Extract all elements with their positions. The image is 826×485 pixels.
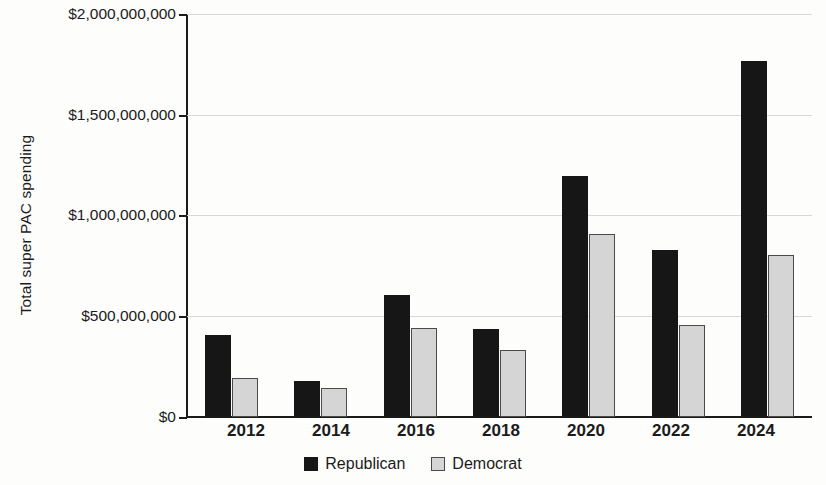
bar-chart: Total super PAC spending $2,000,000,000 … [0,0,826,485]
y-tick-label-2000000000: $2,000,000,000 [0,5,176,23]
legend-label-democrat: Democrat [452,455,521,473]
gridline-2000000000 [187,14,812,15]
plot-area [187,14,812,417]
bar-democrat-2024 [768,255,794,417]
bar-democrat-2012 [232,378,258,417]
x-tick-label-2018: 2018 [461,421,541,441]
legend-item-democrat: Democrat [431,455,521,473]
bar-democrat-2016 [411,328,437,417]
bar-republican-2024 [741,61,767,417]
x-tick-label-2016: 2016 [376,421,456,441]
y-tick-label-1500000000: $1,500,000,000 [0,106,176,124]
bar-republican-2020 [562,176,588,417]
y-tick-label-0: $0 [0,408,176,426]
chart-legend: Republican Democrat [0,455,826,473]
bar-republican-2016 [384,295,410,417]
x-tick-label-2024: 2024 [716,421,796,441]
y-tick-label-1000000000: $1,000,000,000 [0,206,176,224]
x-tick-label-2012: 2012 [206,421,286,441]
bar-democrat-2014 [321,388,347,417]
bar-republican-2022 [652,250,678,417]
legend-item-republican: Republican [304,455,405,473]
x-tick-label-2022: 2022 [631,421,711,441]
legend-label-republican: Republican [325,455,405,473]
gridline-1500000000 [187,115,812,116]
bar-republican-2012 [205,335,231,417]
gridline-1000000000 [187,215,812,216]
x-tick-label-2020: 2020 [546,421,626,441]
bar-democrat-2022 [679,325,705,417]
legend-swatch-democrat-icon [431,457,445,471]
bar-republican-2014 [294,381,320,417]
bar-democrat-2020 [589,234,615,417]
legend-swatch-republican-icon [304,457,318,471]
bar-republican-2018 [473,329,499,417]
y-tick-label-500000000: $500,000,000 [0,307,176,325]
bar-democrat-2018 [500,350,526,417]
gridline-500000000 [187,316,812,317]
x-tick-label-2014: 2014 [291,421,371,441]
